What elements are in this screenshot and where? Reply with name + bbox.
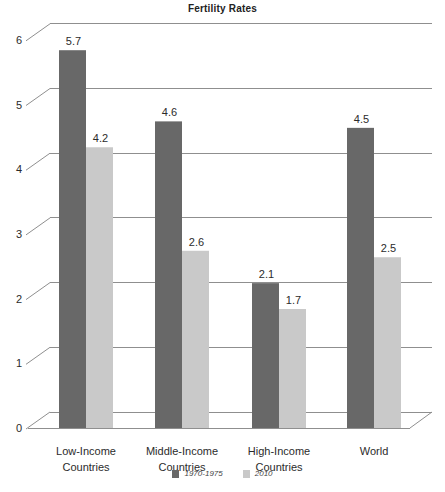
bar-value-label-1970-1975-2: 2.1 [259, 268, 274, 280]
legend-swatch-light-icon [243, 470, 250, 478]
legend-swatch-dark-icon [172, 470, 179, 478]
bar-2010-1 [182, 251, 209, 428]
legend: 1970-1975 2010 [0, 469, 445, 478]
bar-2010-0 [86, 147, 113, 428]
tick-connector-5 [26, 89, 50, 106]
legend-label-1970-1975: 1970-1975 [184, 469, 222, 478]
tick-connector-0 [26, 412, 50, 429]
tick-connector-6 [26, 24, 50, 41]
bar-value-label-1970-1975-1: 4.6 [162, 106, 177, 118]
y-tick-label-6: 6 [16, 34, 22, 46]
y-tick-label-0: 0 [16, 422, 22, 434]
floor-right-edge [410, 412, 432, 428]
tick-connector-1 [26, 347, 50, 364]
tick-connector-2 [26, 283, 50, 300]
bar-value-label-2010-0: 4.2 [93, 132, 108, 144]
legend-label-2010: 2010 [255, 469, 273, 478]
bar-2010-2 [279, 309, 306, 428]
y-tick-label-4: 4 [16, 163, 22, 175]
y-tick-label-1: 1 [16, 357, 22, 369]
bar-1970-1975-2 [252, 283, 279, 428]
bar-1970-1975-1 [155, 121, 182, 428]
bar-value-label-2010-1: 2.6 [189, 236, 204, 248]
tick-connector-4 [26, 153, 50, 170]
legend-item-2010: 2010 [243, 469, 273, 478]
bar-2010-3 [374, 257, 401, 428]
category-label-world: World [319, 443, 429, 459]
y-tick-label-3: 3 [16, 228, 22, 240]
legend-item-1970-1975: 1970-1975 [172, 469, 222, 478]
bar-1970-1975-3 [347, 128, 374, 428]
bar-1970-1975-0 [59, 50, 86, 428]
bar-value-label-1970-1975-0: 5.7 [66, 35, 81, 47]
y-tick-label-5: 5 [16, 99, 22, 111]
bar-chart-plot-area: 01234565.74.24.62.62.11.74.52.5 [0, 0, 445, 465]
bar-value-label-2010-2: 1.7 [286, 294, 301, 306]
bar-value-label-1970-1975-3: 4.5 [354, 113, 369, 125]
y-tick-label-2: 2 [16, 293, 22, 305]
fertility-rates-chart-page: Fertility Rates 01234565.74.24.62.62.11.… [0, 0, 445, 492]
tick-connector-3 [26, 218, 50, 235]
bar-value-label-2010-3: 2.5 [381, 242, 396, 254]
